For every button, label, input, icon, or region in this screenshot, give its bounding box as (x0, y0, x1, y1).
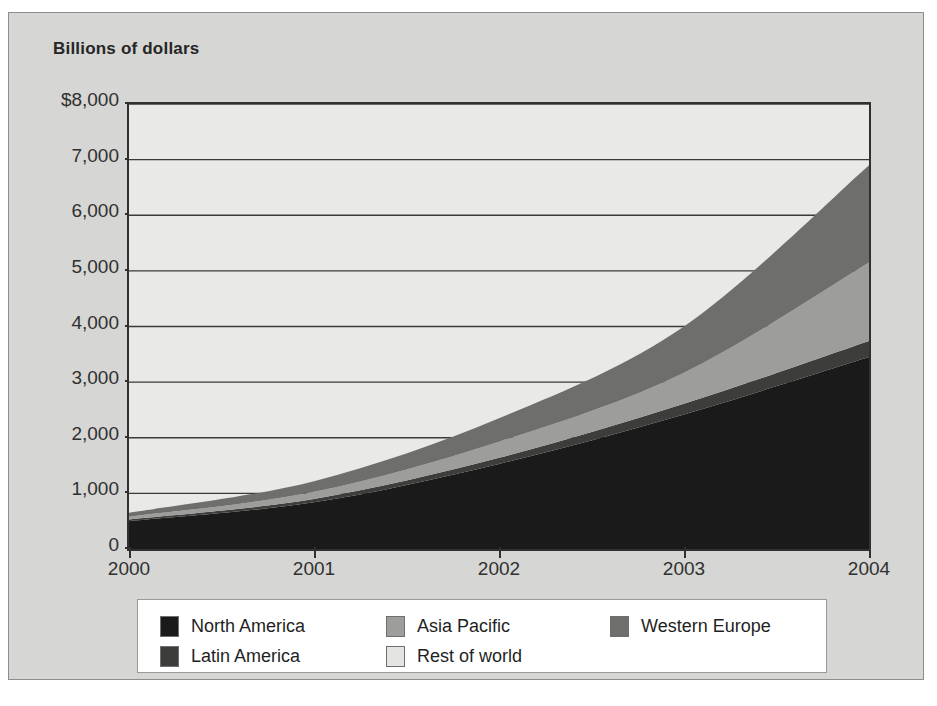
y-axis-tick-label: 2,000 (27, 423, 119, 445)
legend-label: North America (191, 616, 305, 637)
plot-area (127, 102, 871, 551)
area-series-group (129, 165, 869, 549)
legend-item[interactable]: North America (160, 613, 305, 639)
legend-swatch-icon (610, 616, 629, 637)
legend-label: Asia Pacific (417, 616, 510, 637)
legend: North AmericaAsia PacificWestern EuropeL… (137, 599, 827, 673)
y-axis-tick-label: 3,000 (27, 367, 119, 389)
x-axis-tick-label: 2001 (254, 558, 374, 580)
legend-label: Western Europe (641, 616, 771, 637)
legend-item[interactable]: Asia Pacific (386, 613, 510, 639)
legend-item[interactable]: Rest of world (386, 643, 522, 669)
page-title: Billions of dollars (53, 39, 199, 59)
x-axis-tick-label: 2003 (624, 558, 744, 580)
chart-frame: Billions of dollars $8,0007,0006,0005,00… (8, 12, 924, 680)
legend-swatch-icon (160, 616, 179, 637)
legend-grid: North AmericaAsia PacificWestern EuropeL… (138, 600, 826, 672)
legend-label: Latin America (191, 646, 300, 667)
y-axis-tick-label: 7,000 (27, 145, 119, 167)
x-axis-tick-mark (869, 547, 871, 558)
stacked-area-chart (129, 104, 869, 549)
legend-swatch-icon (386, 616, 405, 637)
x-axis-tick-mark (314, 547, 316, 558)
y-axis-tick-label: 4,000 (27, 312, 119, 334)
legend-item[interactable]: Western Europe (610, 613, 771, 639)
y-axis-tick-label: 1,000 (27, 478, 119, 500)
y-axis-tick-label: 6,000 (27, 200, 119, 222)
x-axis: 20002001200220032004 (127, 558, 871, 586)
legend-swatch-icon (386, 646, 405, 667)
x-axis-tick-label: 2000 (69, 558, 189, 580)
y-axis: $8,0007,0006,0005,0004,0003,0002,0001,00… (21, 102, 119, 547)
legend-item[interactable]: Latin America (160, 643, 300, 669)
y-axis-tick-label: 0 (27, 534, 119, 556)
x-axis-tick-mark (129, 547, 131, 558)
legend-label: Rest of world (417, 646, 522, 667)
x-axis-tick-label: 2002 (439, 558, 559, 580)
x-axis-tick-mark (499, 547, 501, 558)
legend-swatch-icon (160, 646, 179, 667)
y-axis-tick-label: $8,000 (27, 89, 119, 111)
x-axis-tick-label: 2004 (809, 558, 929, 580)
x-axis-tick-mark (684, 547, 686, 558)
chart-page: Billions of dollars $8,0007,0006,0005,00… (0, 0, 937, 706)
y-axis-tick-label: 5,000 (27, 256, 119, 278)
